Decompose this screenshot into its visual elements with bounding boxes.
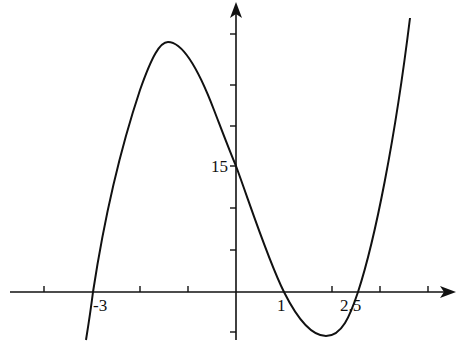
- x-label-2-5: 2.5: [340, 297, 361, 314]
- x-label-neg3: -3: [93, 297, 107, 314]
- y-label-15: 15: [211, 158, 228, 175]
- y-ticks: [230, 34, 236, 332]
- x-label-1: 1: [277, 297, 286, 314]
- cubic-graph: [0, 0, 458, 349]
